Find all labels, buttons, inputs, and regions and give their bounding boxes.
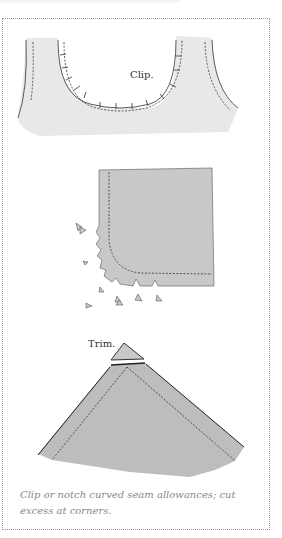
clip-label: Clip. — [130, 69, 154, 80]
trim-label: Trim. — [88, 338, 115, 349]
trimmed-corner-illustration — [38, 343, 244, 477]
neckline-fabric — [18, 36, 238, 136]
illustrations-canvas — [0, 0, 282, 538]
notched-corner-illustration — [76, 168, 214, 308]
figure-caption: Clip or notch curved seam allowances; cu… — [20, 487, 265, 519]
pointed-fabric — [38, 363, 244, 477]
trimmed-tip — [111, 343, 144, 360]
neckline-illustration — [18, 36, 238, 136]
notched-fabric — [96, 168, 214, 286]
